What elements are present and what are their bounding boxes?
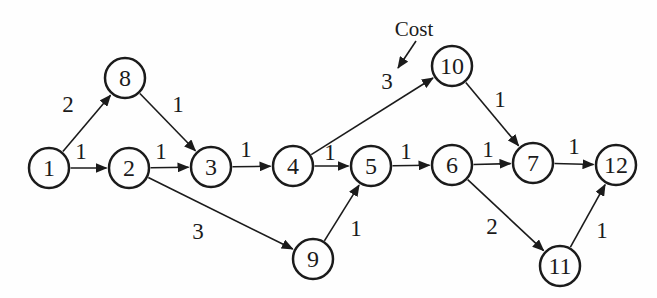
directed-graph-diagram: 121131131111211123456789101112Cost [0, 0, 657, 298]
edge-6-7-arrow [474, 164, 511, 165]
node-label: 8 [119, 65, 131, 91]
edge-1-8-cost-label: 2 [62, 92, 74, 117]
node-12: 12 [596, 145, 636, 185]
edge-8-3-arrow [140, 94, 196, 151]
edge-5-6-cost-label: 1 [400, 139, 412, 164]
node-label: 6 [446, 152, 458, 178]
cost-annotation-label: Cost [395, 17, 434, 41]
node-label: 3 [205, 154, 217, 180]
edge-10-7-cost-label: 1 [494, 87, 506, 112]
node-label: 5 [365, 153, 377, 179]
edge-2-9-arrow [148, 178, 292, 250]
node-label: 4 [287, 153, 299, 179]
edge-4-5-cost-label: 1 [324, 140, 336, 165]
edge-11-12-cost-label: 1 [596, 218, 608, 243]
node-1: 1 [29, 148, 69, 188]
node-10: 10 [432, 46, 472, 86]
node-5: 5 [351, 146, 391, 186]
edge-7-12-cost-label: 1 [568, 134, 580, 159]
node-7: 7 [513, 143, 553, 183]
edge-2-9-cost-label: 3 [192, 219, 204, 244]
edge-7-12-arrow [555, 164, 594, 165]
node-3: 3 [191, 147, 231, 187]
edge-3-4-cost-label: 1 [240, 137, 252, 162]
node-2: 2 [109, 148, 149, 188]
node-label: 1 [43, 155, 55, 181]
node-9: 9 [293, 239, 333, 279]
node-label: 2 [123, 155, 135, 181]
edge-1-2-cost-label: 1 [75, 139, 87, 164]
node-label: 9 [307, 246, 319, 272]
node-label: 7 [527, 150, 539, 176]
node-label: 10 [440, 53, 464, 79]
node-8: 8 [105, 58, 145, 98]
edge-2-3-cost-label: 1 [155, 139, 167, 164]
cost-annotation-arrow [398, 41, 416, 68]
node-11: 11 [540, 246, 580, 286]
node-label: 12 [604, 152, 628, 178]
node-4: 4 [273, 146, 313, 186]
graph-figure: 121131131111211123456789101112Cost [0, 0, 657, 298]
edge-4-10-cost-label: 3 [381, 69, 393, 94]
edge-6-7-cost-label: 1 [482, 137, 494, 162]
node-label: 11 [548, 253, 571, 279]
edge-8-3-cost-label: 1 [172, 92, 184, 117]
edge-6-11-cost-label: 2 [486, 214, 498, 239]
edge-4-10-arrow [311, 78, 433, 155]
edge-9-5-cost-label: 1 [350, 216, 362, 241]
edge-6-11-arrow [468, 180, 544, 251]
node-6: 6 [432, 145, 472, 185]
